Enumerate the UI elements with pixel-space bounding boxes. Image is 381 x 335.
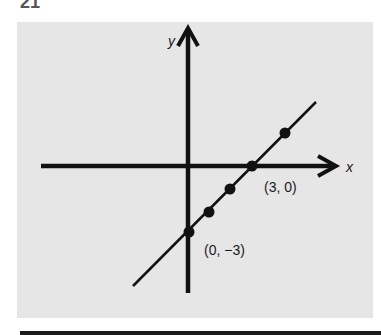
x-axis-label: x bbox=[345, 159, 354, 175]
point-label-3-0: (3, 0) bbox=[264, 179, 297, 195]
point-2-neg1 bbox=[225, 184, 236, 195]
point-3-0 bbox=[247, 161, 258, 172]
point-label-0-neg3: (0, −3) bbox=[204, 242, 245, 258]
y-axis-label: y bbox=[167, 33, 176, 49]
bottom-rule bbox=[20, 331, 381, 335]
point-1-neg2 bbox=[204, 207, 215, 218]
point-0-neg3 bbox=[184, 227, 195, 238]
point-upper bbox=[280, 128, 291, 139]
coordinate-plot: y x (3, 0) (0, −3) bbox=[0, 0, 381, 335]
